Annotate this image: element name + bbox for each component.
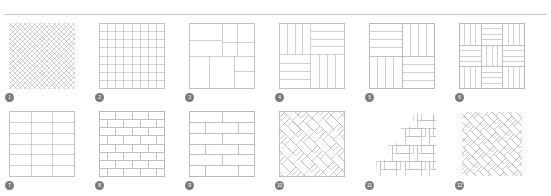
- pattern-cell-diagonal-herringbone-framed[interactable]: 10: [272, 110, 362, 196]
- pattern-figure-double-basketweave: [368, 22, 436, 90]
- pattern-figure-stepped-herringbone: [368, 110, 436, 178]
- pattern-figure-pinwheel-basketweave: [458, 22, 526, 90]
- pattern-figure-stacked-rectangular-grid: [8, 110, 76, 178]
- pattern-number-badge: 7: [5, 181, 14, 190]
- pattern-number-badge: 10: [275, 181, 284, 190]
- pattern-figure-diagonal-herringbone-framed: [278, 110, 346, 178]
- pattern-figure-running-bond-large-brick: [188, 110, 256, 178]
- top-horizontal-rule: [4, 14, 547, 15]
- pattern-number-badge: 2: [95, 93, 104, 102]
- tile-pattern-sheet: 123456789101112: [0, 0, 551, 196]
- pattern-figure-dense-diagonal-herringbone: [458, 110, 526, 178]
- pattern-number-badge: 5: [365, 93, 374, 102]
- pattern-number-badge: 8: [95, 181, 104, 190]
- pattern-cell-pinwheel-basketweave[interactable]: 6: [452, 22, 542, 108]
- pattern-cell-double-basketweave[interactable]: 5: [362, 22, 452, 108]
- pattern-grid: 123456789101112: [0, 22, 551, 196]
- pattern-number-badge: 12: [455, 181, 464, 190]
- pattern-number-badge: 9: [185, 181, 194, 190]
- pattern-cell-modular-random-block[interactable]: 3: [182, 22, 272, 108]
- pattern-number-badge: 1: [5, 93, 14, 102]
- pattern-cell-stepped-herringbone[interactable]: 11: [362, 110, 452, 196]
- pattern-cell-running-bond-small-brick[interactable]: 8: [92, 110, 182, 196]
- pattern-number-badge: 4: [275, 93, 284, 102]
- pattern-cell-running-bond-large-brick[interactable]: 9: [182, 110, 272, 196]
- pattern-cell-dense-diagonal-herringbone[interactable]: 12: [452, 110, 542, 196]
- pattern-number-badge: 3: [185, 93, 194, 102]
- pattern-number-badge: 6: [455, 93, 464, 102]
- pattern-figure-running-bond-small-brick: [98, 110, 166, 178]
- pattern-figure-plank-basketweave-quadrant: [278, 22, 346, 90]
- pattern-cell-stacked-rectangular-grid[interactable]: 7: [2, 110, 92, 196]
- pattern-cell-plank-basketweave-quadrant[interactable]: 4: [272, 22, 362, 108]
- pattern-figure-modular-random-block: [188, 22, 256, 90]
- pattern-cell-stacked-square-grid[interactable]: 2: [92, 22, 182, 108]
- pattern-cell-diagonal-diamond-grid[interactable]: 1: [2, 22, 92, 108]
- pattern-figure-diagonal-diamond-grid: [8, 22, 76, 90]
- pattern-figure-stacked-square-grid: [98, 22, 166, 90]
- pattern-number-badge: 11: [365, 181, 374, 190]
